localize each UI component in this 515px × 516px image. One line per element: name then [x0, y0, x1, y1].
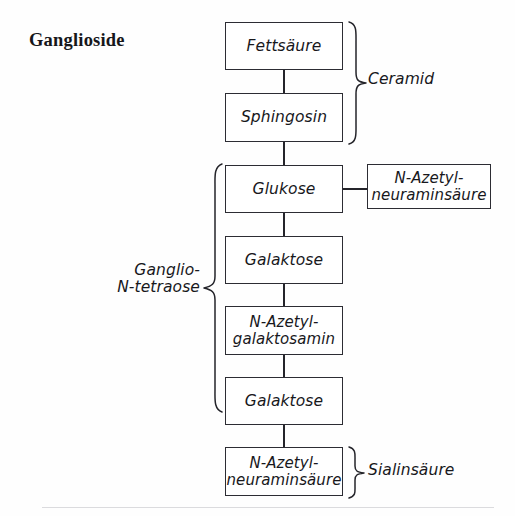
- node-galaktose-1-label: Galaktose: [241, 252, 327, 269]
- connector-galaktosamin-galaktose2: [283, 355, 285, 377]
- node-galaktose-1[interactable]: Galaktose: [225, 236, 343, 284]
- node-n-azetyl-galaktosamin-line-1: N-Azetyl-: [249, 313, 318, 331]
- brace-sialinsaeure: [345, 445, 369, 500]
- connector-sphingosin-glukose: [283, 142, 285, 165]
- node-n-azetyl-galaktosamin-line-2: galaktosamin: [233, 330, 335, 348]
- node-glukose-label: Glukose: [249, 181, 320, 198]
- group-label-sialinsaeure-text: Sialinsäure: [368, 461, 455, 479]
- diagram-canvas: Ganglioside Fettsäure Sphingosin Glukose…: [0, 0, 515, 516]
- node-n-azetyl-galaktosamin-label: N-Azetyl- galaktosamin: [229, 314, 339, 348]
- group-label-ganglio-n-tetraose-line-2: N-tetraose: [117, 278, 200, 296]
- connector-galaktose2-neuraminsaeure: [283, 425, 285, 447]
- node-n-azetyl-neuraminsaeure-side-line-1: N-Azetyl-: [394, 169, 463, 187]
- node-n-azetyl-neuraminsaeure-side-line-2: neuraminsäure: [371, 186, 486, 204]
- node-n-azetyl-neuraminsaeure-bottom-line-1: N-Azetyl-: [249, 454, 318, 472]
- node-fettsaeure-label: Fettsäure: [243, 38, 326, 55]
- node-n-azetyl-galaktosamin[interactable]: N-Azetyl- galaktosamin: [225, 306, 343, 355]
- connector-glukose-branch: [343, 188, 368, 190]
- node-sphingosin[interactable]: Sphingosin: [225, 93, 343, 142]
- node-n-azetyl-neuraminsaeure-bottom[interactable]: N-Azetyl- neuraminsäure: [225, 447, 343, 496]
- diagram-title: Ganglioside: [29, 30, 125, 51]
- group-label-ceramid-text: Ceramid: [368, 70, 434, 88]
- group-label-sialinsaeure: Sialinsäure: [368, 462, 455, 479]
- group-label-ganglio-n-tetraose-line-1: Ganglio-: [134, 261, 200, 279]
- node-fettsaeure[interactable]: Fettsäure: [225, 22, 343, 70]
- node-n-azetyl-neuraminsaeure-bottom-label: N-Azetyl- neuraminsäure: [222, 455, 345, 489]
- node-glukose[interactable]: Glukose: [225, 165, 343, 213]
- group-label-ganglio-n-tetraose: Ganglio-N-tetraose: [78, 262, 200, 297]
- connector-galaktose1-galaktosamin: [283, 284, 285, 306]
- group-label-ceramid: Ceramid: [368, 71, 434, 88]
- bottom-rule: [42, 507, 494, 508]
- node-n-azetyl-neuraminsaeure-bottom-line-2: neuraminsäure: [226, 471, 341, 489]
- node-sphingosin-label: Sphingosin: [237, 109, 331, 126]
- node-n-azetyl-neuraminsaeure-side[interactable]: N-Azetyl- neuraminsäure: [367, 164, 491, 209]
- node-n-azetyl-neuraminsaeure-side-label: N-Azetyl- neuraminsäure: [367, 170, 490, 204]
- connector-glukose-galaktose1: [283, 213, 285, 236]
- brace-ganglio-n-tetraose: [200, 162, 226, 414]
- node-galaktose-2[interactable]: Galaktose: [225, 377, 343, 425]
- node-galaktose-2-label: Galaktose: [241, 393, 327, 410]
- connector-fettsaeure-sphingosin: [283, 70, 285, 93]
